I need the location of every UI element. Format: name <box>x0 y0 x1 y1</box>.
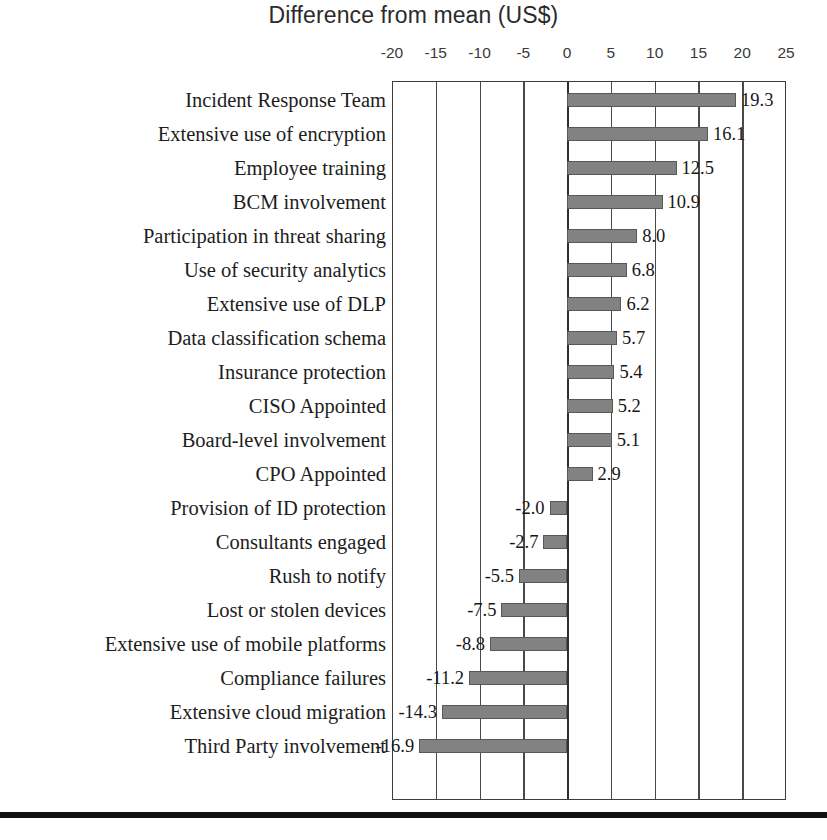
chart-row: Extensive cloud migration-14.3 <box>0 695 827 729</box>
bar <box>442 705 567 719</box>
chart-row: Provision of ID protection-2.0 <box>0 491 827 525</box>
chart-row: Use of security analytics6.8 <box>0 253 827 287</box>
category-label: Compliance failures <box>0 661 386 695</box>
bar <box>543 535 567 549</box>
chart-row: Extensive use of DLP6.2 <box>0 287 827 321</box>
chart-row: Board-level involvement5.1 <box>0 423 827 457</box>
value-label: -16.9 <box>376 729 415 763</box>
value-label: 5.7 <box>622 321 645 355</box>
chart-row: Extensive use of mobile platforms-8.8 <box>0 627 827 661</box>
bar <box>519 569 567 583</box>
chart-row: Data classification schema5.7 <box>0 321 827 355</box>
chart-row: CISO Appointed5.2 <box>0 389 827 423</box>
category-label: CPO Appointed <box>0 457 386 491</box>
value-label: 5.4 <box>619 355 642 389</box>
chart-row: Lost or stolen devices-7.5 <box>0 593 827 627</box>
category-label: Rush to notify <box>0 559 386 593</box>
chart-row: Third Party involvement-16.9 <box>0 729 827 763</box>
category-label: Lost or stolen devices <box>0 593 386 627</box>
x-tick-25: 25 <box>777 44 794 62</box>
value-label: 8.0 <box>642 219 665 253</box>
value-label: -5.5 <box>485 559 514 593</box>
bar <box>567 127 708 141</box>
chart-row: CPO Appointed2.9 <box>0 457 827 491</box>
category-label: Participation in threat sharing <box>0 219 386 253</box>
chart-title: Difference from mean (US$) <box>0 2 827 29</box>
category-label: Extensive use of encryption <box>0 117 386 151</box>
category-label: Data classification schema <box>0 321 386 355</box>
value-label: 16.1 <box>713 117 745 151</box>
x-tick-20: 20 <box>734 44 751 62</box>
category-label: Provision of ID protection <box>0 491 386 525</box>
value-label: 10.9 <box>668 185 700 219</box>
value-label: -8.8 <box>456 627 485 661</box>
value-label: 5.1 <box>617 423 640 457</box>
category-label: Use of security analytics <box>0 253 386 287</box>
bar <box>419 739 567 753</box>
value-label: 2.9 <box>598 457 621 491</box>
value-label: 5.2 <box>618 389 641 423</box>
value-label: 12.5 <box>682 151 714 185</box>
bar <box>567 297 621 311</box>
x-tick-neg10: -10 <box>468 44 490 62</box>
bar <box>490 637 567 651</box>
category-label: Extensive use of mobile platforms <box>0 627 386 661</box>
value-label: -7.5 <box>467 593 496 627</box>
bar <box>567 93 736 107</box>
chart-row: Insurance protection5.4 <box>0 355 827 389</box>
category-label: BCM involvement <box>0 185 386 219</box>
bar <box>567 229 637 243</box>
x-tick-15: 15 <box>690 44 707 62</box>
value-label: -2.0 <box>515 491 544 525</box>
bar <box>501 603 567 617</box>
category-label: Extensive cloud migration <box>0 695 386 729</box>
value-label: -11.2 <box>426 661 464 695</box>
chart-row: Incident Response Team19.3 <box>0 83 827 117</box>
category-label: Incident Response Team <box>0 83 386 117</box>
category-label: CISO Appointed <box>0 389 386 423</box>
bar <box>567 331 617 345</box>
bar-chart: Difference from mean (US$) -20-15-10-505… <box>0 0 827 840</box>
chart-row: Extensive use of encryption16.1 <box>0 117 827 151</box>
category-label: Extensive use of DLP <box>0 287 386 321</box>
x-tick-10: 10 <box>646 44 663 62</box>
chart-row: Employee training12.5 <box>0 151 827 185</box>
bottom-rule <box>0 812 827 818</box>
x-tick-5: 5 <box>607 44 616 62</box>
value-label: -2.7 <box>509 525 538 559</box>
bar <box>469 671 567 685</box>
value-label: 6.8 <box>632 253 655 287</box>
chart-row: BCM involvement10.9 <box>0 185 827 219</box>
value-label: -14.3 <box>398 695 437 729</box>
chart-row: Compliance failures-11.2 <box>0 661 827 695</box>
bar <box>567 263 627 277</box>
category-label: Consultants engaged <box>0 525 386 559</box>
category-label: Employee training <box>0 151 386 185</box>
chart-row: Rush to notify-5.5 <box>0 559 827 593</box>
chart-row: Consultants engaged-2.7 <box>0 525 827 559</box>
bar <box>567 161 676 175</box>
x-tick-0: 0 <box>563 44 572 62</box>
bar <box>567 399 613 413</box>
chart-row: Participation in threat sharing8.0 <box>0 219 827 253</box>
value-label: 6.2 <box>626 287 649 321</box>
x-tick-neg15: -15 <box>425 44 447 62</box>
category-label: Third Party involvement <box>0 729 386 763</box>
category-label: Insurance protection <box>0 355 386 389</box>
bar <box>567 195 662 209</box>
page-edge <box>0 834 827 840</box>
bar <box>567 433 612 447</box>
x-tick-neg5: -5 <box>516 44 530 62</box>
category-label: Board-level involvement <box>0 423 386 457</box>
bar <box>567 467 592 481</box>
x-tick-neg20: -20 <box>381 44 403 62</box>
value-label: 19.3 <box>741 83 773 117</box>
bar <box>550 501 568 515</box>
bar <box>567 365 614 379</box>
